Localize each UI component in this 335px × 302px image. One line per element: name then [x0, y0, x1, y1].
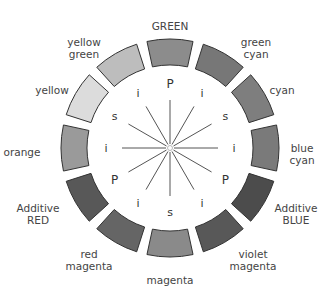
inner-label: s [112, 110, 118, 123]
inner-label: P [166, 77, 173, 91]
wheel-segment-blue-cyan [251, 125, 279, 171]
segment-label: green cyan [241, 36, 271, 60]
inner-label: P [111, 173, 118, 187]
segment-label: Additive BLUE [275, 202, 318, 226]
segment-label: yellow green [67, 36, 101, 60]
wheel-segment-magenta [147, 229, 193, 257]
spoke-line [128, 150, 166, 172]
segment-label: orange [4, 146, 41, 158]
inner-label: i [232, 142, 235, 155]
inner-label: P [222, 173, 229, 187]
inner-label: i [136, 86, 139, 99]
segment-label: Additive RED [17, 202, 60, 226]
segment-label: blue cyan [289, 142, 314, 166]
segment-label: magenta [147, 274, 194, 286]
inner-label: i [200, 86, 203, 99]
center-hub [168, 146, 173, 151]
wheel-segment-red-magenta [97, 209, 145, 251]
wheel-segment-cyan [231, 75, 273, 123]
segment-label: violet magenta [230, 248, 277, 272]
spoke-line [146, 106, 168, 144]
segment-label: red magenta [66, 248, 113, 272]
wheel-segment-violet-magenta [195, 209, 243, 251]
wheel-segment-green [147, 39, 193, 67]
segment-label: cyan [269, 84, 294, 96]
inner-label: i [104, 142, 107, 155]
wheel-segment-green-cyan [195, 44, 243, 86]
wheel-segment-yellow-green [97, 44, 145, 86]
segment-label: yellow [35, 84, 69, 96]
spoke-line [128, 124, 166, 146]
inner-label: i [200, 197, 203, 210]
color-wheel [0, 0, 335, 302]
inner-label: s [223, 110, 229, 123]
wheel-segment-additive-blue [231, 173, 273, 221]
segment-label: GREEN [152, 20, 189, 32]
inner-label: i [136, 197, 139, 210]
spoke-line [173, 150, 211, 172]
spoke-line [172, 151, 194, 189]
spoke-line [173, 124, 211, 146]
wheel-segment-additive-red [66, 173, 108, 221]
spoke-line [172, 106, 194, 144]
spoke-line [146, 151, 168, 189]
wheel-segment-yellow [66, 75, 108, 123]
inner-label: s [167, 206, 173, 219]
wheel-segment-orange [61, 125, 89, 171]
